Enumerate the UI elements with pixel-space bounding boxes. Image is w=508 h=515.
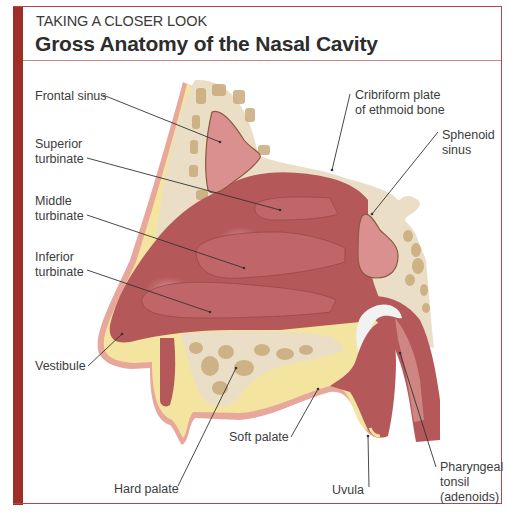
label-sphenoid-sinus: Sphenoid sinus [442, 128, 495, 158]
label-pharyngeal-tonsil: Pharyngeal tonsil (adenoids) [440, 460, 503, 505]
superior-turbinate [255, 197, 338, 220]
label-soft-palate: Soft palate [229, 430, 289, 445]
label-vestibule: Vestibule [35, 359, 86, 374]
label-superior-turbinate: Superior turbinate [35, 137, 84, 167]
label-cribriform-plate: Cribriform plate of ethmoid bone [355, 88, 445, 118]
label-hard-palate: Hard palate [114, 482, 179, 497]
label-frontal-sinus: Frontal sinus [35, 89, 107, 104]
label-middle-turbinate: Middle turbinate [35, 194, 84, 224]
label-inferior-turbinate: Inferior turbinate [35, 250, 84, 280]
label-uvula: Uvula [332, 483, 364, 498]
